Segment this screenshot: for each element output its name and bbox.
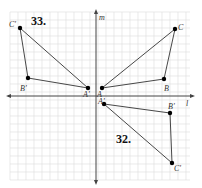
label-c-33: C: [178, 23, 184, 32]
label-b-prime-33: B': [20, 84, 27, 93]
point-b-prime-33: [26, 76, 30, 80]
axis-m-arrow-up-icon: [94, 9, 98, 14]
point-b-prime-32: [168, 111, 172, 115]
point-c-prime-33: [18, 26, 22, 30]
axis-l-arrow-right-icon: [190, 94, 195, 98]
axis-l-arrow-left-icon: [6, 94, 11, 98]
label-b-33: B: [164, 84, 169, 93]
point-c: [173, 27, 177, 31]
label-b-prime-32: B': [168, 102, 175, 111]
exercise-32-number: 32.: [116, 132, 131, 146]
exercise-33-number: 33.: [31, 14, 46, 28]
point-b: [162, 77, 166, 81]
label-c-prime-32: C': [174, 164, 181, 173]
label-c-prime-33: C': [9, 20, 16, 29]
label-a-prime-33: A': [82, 90, 90, 99]
label-a-prime-32: A': [97, 97, 105, 106]
triangle-33-image: [20, 28, 88, 88]
axis-l-label: l: [186, 99, 189, 108]
axis-m-label: m: [99, 13, 105, 22]
reflection-diagram: m l C' B' A' A B C A' B' C' 33. 32.: [0, 0, 202, 188]
axis-m-arrow-down-icon: [94, 180, 98, 185]
